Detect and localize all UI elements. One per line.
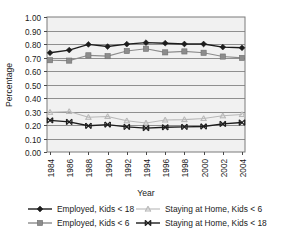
x-axis-tick-label: 2004 (239, 159, 248, 178)
x-axis-tick-label: 1990 (105, 159, 114, 178)
legend-entry[interactable]: Staying at Home, Kids < 18 (136, 218, 267, 228)
y-axis-tick-label: 0.30 (25, 109, 41, 118)
y-axis-tick-label: 0.50 (25, 82, 41, 91)
chart-legend: Employed, Kids < 18Staying at Home, Kids… (28, 204, 267, 228)
data-point-marker (163, 50, 168, 55)
legend-entry[interactable]: Staying at Home, Kids < 6 (136, 204, 262, 214)
chart-container: 1.000.900.800.700.600.500.400.300.200.10… (0, 0, 293, 238)
x-axis-tick-label: 1986 (66, 159, 75, 178)
x-axis-tick-label: 1984 (47, 159, 56, 178)
x-axis-tick-label: 1994 (143, 159, 152, 178)
x-axis-tick-labels: 1984198619881990199219941996199820002002… (47, 159, 248, 178)
legend-entry[interactable]: Employed, Kids < 6 (28, 218, 130, 228)
y-axis-title: Percentage (4, 63, 14, 107)
plot-background (47, 17, 245, 152)
x-axis-tick-label: 1992 (124, 159, 133, 178)
x-axis-tick-label: 1988 (85, 159, 94, 178)
data-point-marker (47, 58, 52, 63)
y-axis-tick-label: 0.90 (25, 28, 41, 37)
data-point-marker (182, 49, 187, 54)
data-point-marker (86, 53, 91, 58)
y-axis-tick-label: 0.40 (25, 95, 41, 104)
data-point-marker (220, 54, 225, 59)
data-point-marker (143, 46, 148, 51)
line-chart: 1.000.900.800.700.600.500.400.300.200.10… (0, 0, 293, 238)
legend-label: Staying at Home, Kids < 18 (165, 218, 267, 228)
data-point-marker (37, 206, 43, 212)
y-axis-tick-label: 0.70 (25, 55, 41, 64)
x-axis-title: Year (137, 188, 155, 198)
data-point-marker (105, 54, 110, 59)
y-axis-tick-label: 0.80 (25, 41, 41, 50)
data-point-marker (124, 48, 129, 53)
data-point-marker (67, 58, 72, 63)
plot-background-group (47, 17, 245, 152)
y-axis-tick-label: 0.10 (25, 136, 41, 145)
legend-entry[interactable]: Employed, Kids < 18 (28, 204, 134, 214)
y-axis-tick-label: 0.20 (25, 122, 41, 131)
data-point-marker (37, 220, 42, 225)
y-axis-tick-label: 0.00 (25, 149, 41, 158)
x-axis-tick-label: 2000 (201, 159, 210, 178)
y-axis-tick-label: 1.00 (25, 14, 41, 23)
legend-label: Staying at Home, Kids < 6 (165, 204, 262, 214)
y-axis-tick-labels: 1.000.900.800.700.600.500.400.300.200.10… (25, 14, 41, 158)
data-point-marker (201, 50, 206, 55)
legend-label: Employed, Kids < 6 (57, 218, 130, 228)
data-point-marker (239, 55, 244, 60)
legend-label: Employed, Kids < 18 (57, 204, 134, 214)
y-axis-tick-label: 0.60 (25, 68, 41, 77)
x-axis-tick-label: 2002 (220, 159, 229, 178)
x-axis-tick-label: 1998 (181, 159, 190, 178)
x-axis-tick-label: 1996 (162, 159, 171, 178)
